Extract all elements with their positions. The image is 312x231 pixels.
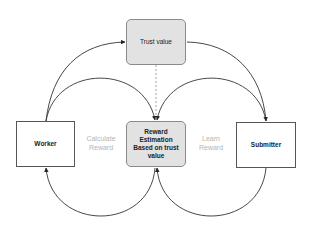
node-reward-estimation: Reward Estimation Based on trust value [126,121,186,167]
edge-worker-to-trust [46,42,125,121]
node-trust-value: Trust value [126,19,186,65]
node-reward-estimation-label: Reward Estimation Based on trust value [129,128,183,160]
edge-label-learn-reward: Learn Reward [190,134,232,152]
node-submitter-label: Submitter [251,141,281,149]
edge-label-calculate-reward: Calculate Reward [80,134,122,152]
edge-reward-to-worker [46,168,155,216]
node-submitter: Submitter [236,122,296,168]
edge-trust-to-submitter [187,42,266,121]
calculate-reward-text: Calculate Reward [86,135,115,151]
node-worker-label: Worker [34,140,56,148]
node-trust-value-label: Trust value [140,38,172,46]
node-worker: Worker [16,121,75,167]
edge-submitter-to-reward-bottom [157,168,266,216]
learn-reward-text: Learn Reward [199,135,223,151]
edge-submitter-to-reward [157,78,266,121]
edge-worker-to-reward [46,78,155,121]
